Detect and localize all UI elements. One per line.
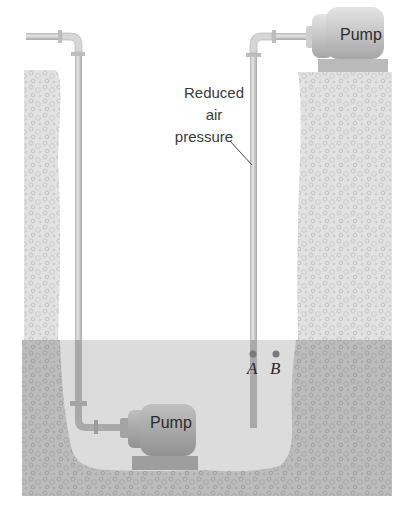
top-pump-label: Pump — [340, 26, 382, 43]
label-line-3: pressure — [175, 128, 233, 145]
bottom-pump-label: Pump — [150, 414, 192, 431]
point-b-marker — [273, 351, 280, 358]
point-a-marker — [250, 351, 257, 358]
ground-left — [24, 70, 60, 340]
well-pump-diagram: Pump Pump Reduced air pressure A B — [0, 0, 410, 508]
top-pump: Pump — [306, 7, 388, 72]
point-a-label: A — [246, 359, 258, 378]
point-b-label: B — [270, 359, 281, 378]
ground-right — [297, 72, 392, 340]
label-line-1: Reduced — [184, 84, 244, 101]
label-line-2: air — [206, 106, 223, 123]
